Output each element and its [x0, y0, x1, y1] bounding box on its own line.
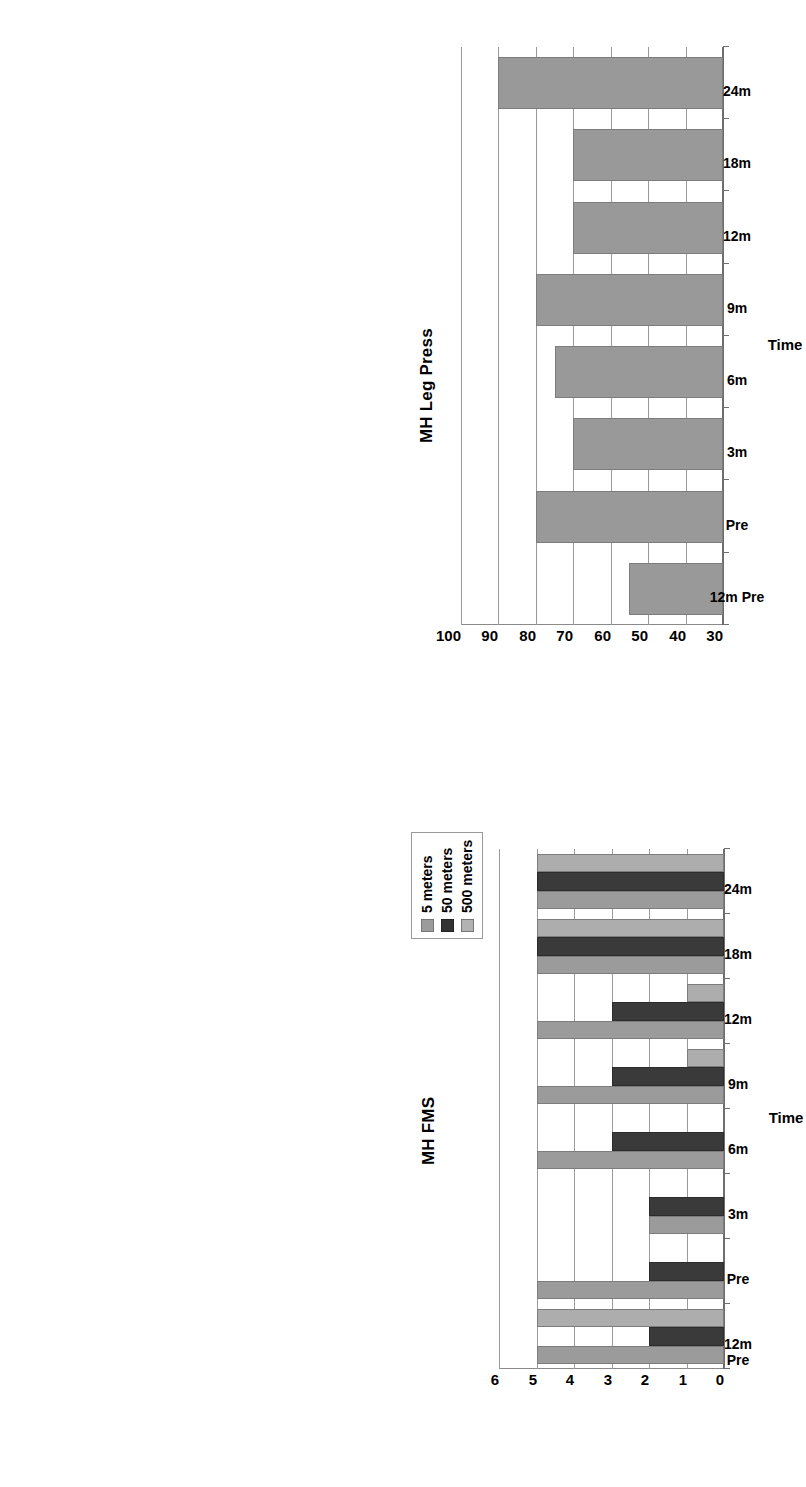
panel-chq: Physical Functioning CHQ 02040608010012m… [403, 0, 806, 743]
panel-gmfm: MH GMFM 55.0060.0065.0070.0012m PrePre12… [403, 744, 806, 1487]
figure-page: MH Leg Press 3040506070809010012m PrePre… [0, 0, 806, 1487]
panel-leg-press: MH Leg Press 3040506070809010012m PrePre… [0, 0, 403, 743]
panel-fms: MH FMS 5 meters 50 meters 500 meters [0, 744, 403, 1487]
